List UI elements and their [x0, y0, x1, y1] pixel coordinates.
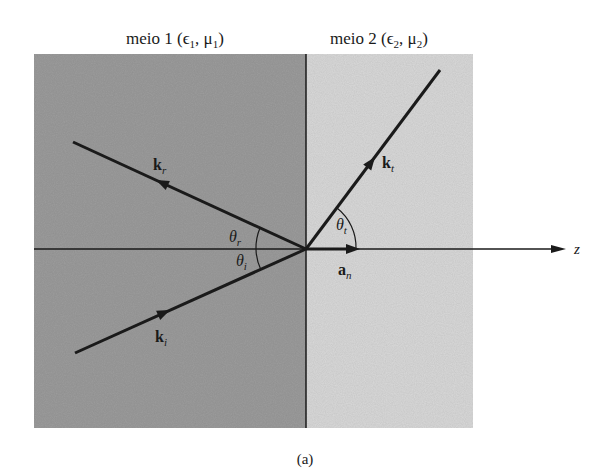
reflection-refraction-diagram: z an ki kr kt θr θi θt meio 1 (ϵ1, μ1) m…: [0, 0, 609, 474]
medium-2-region: [306, 54, 473, 428]
figure-caption: (a): [297, 451, 314, 468]
medium-2-title: meio 2 (ϵ2, μ2): [330, 29, 428, 50]
medium-1-title: meio 1 (ϵ1, μ1): [126, 29, 224, 50]
medium-1-region: [34, 54, 306, 428]
z-axis-label: z: [573, 241, 580, 257]
z-axis-arrowhead-icon: [551, 245, 566, 253]
